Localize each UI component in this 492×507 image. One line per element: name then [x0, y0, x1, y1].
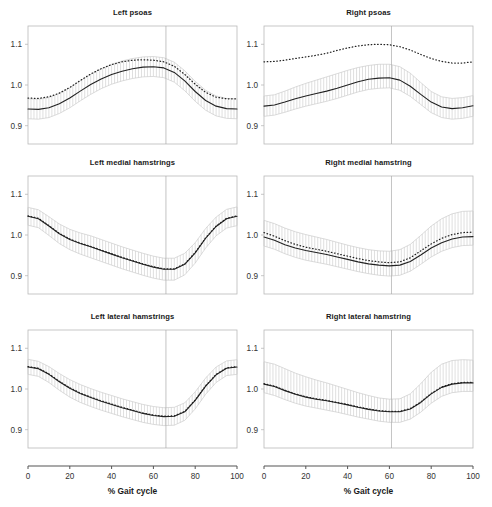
x-tick-label: 100 [466, 472, 480, 481]
x-tick-label: 0 [262, 472, 267, 481]
x-tick-label: 80 [427, 472, 437, 481]
x-axis-column-1: 020406080100% Gait cycle [0, 0, 492, 507]
x-tick-label: 40 [343, 472, 353, 481]
x-tick-label: 60 [385, 472, 395, 481]
x-axis-label: % Gait cycle [344, 486, 394, 496]
gait-analysis-figure: Left psoas0.91.01.1Right psoas0.91.01.1L… [0, 0, 492, 507]
x-tick-label: 20 [301, 472, 311, 481]
